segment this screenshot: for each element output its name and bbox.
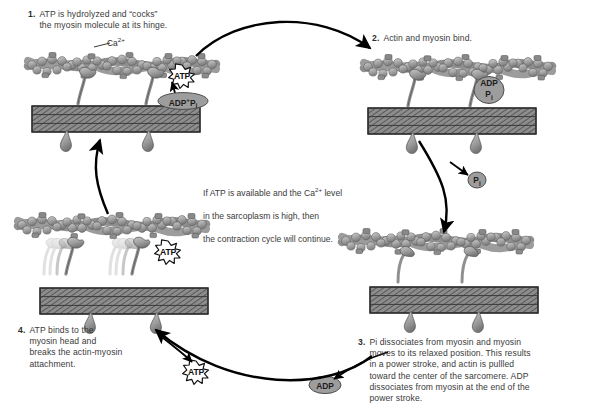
step-2-text: Actin and myosin bind. [383,33,472,44]
atp-burst-label-panel1: ATP [168,71,196,81]
step-1-caption: 1. ATP is hydrolyzed and “cocks” the myo… [28,9,228,31]
step-3-caption: 3. Pi dissociates from myosin and myosin… [358,337,602,404]
step-3-text: Pi dissociates from myosin and myosin mo… [369,337,530,404]
step-3-number: 3. [358,337,365,404]
center-note-line3: the contraction cycle will continue. [203,234,333,244]
pi-free-subscript: i [479,180,481,187]
atp-burst-label-bottom: ATP [182,367,210,377]
adp-text: ADP [169,98,187,108]
adp-text-panel2: ADP [480,78,498,88]
step-1-number: 1. [28,9,35,31]
cycle-arrow-right [419,141,447,232]
calcium-label-superscript: 2+ [118,36,125,43]
step-2-caption: 2. Actin and myosin bind. [372,33,562,44]
step-1-text: ATP is hydrolyzed and “cocks” the myosin… [39,9,167,31]
step-4-number: 4. [18,325,25,370]
step-2-number: 2. [372,33,379,44]
adp-pi-label-panel2: ADP Pi [475,78,503,103]
calcium-label: Ca2+ [107,36,125,48]
cycle-arrow-left [96,140,108,214]
center-note-superscript: 2+ [315,186,322,193]
step-4-text: ATP binds to the myosin head and breaks … [29,325,122,370]
diagram-canvas: 1. ATP is hydrolyzed and “cocks” the myo… [0,0,604,413]
atp-burst-label-panel4: ATP [154,247,182,257]
panel-2-artwork [364,55,553,154]
panel-4-artwork [18,213,208,334]
adp-free-label: ADP [311,381,339,391]
center-note: If ATP is available and the Ca2+ level i… [203,173,403,245]
center-note-line1a: If ATP is available and the Ca [203,188,315,198]
pi-free-label: Pi [466,175,488,187]
phosphorus-subscript-panel2: i [491,94,493,101]
center-note-line1b: level [322,188,342,198]
adp-pi-label-panel1: ADP+Pi [159,96,207,109]
phosphorus-subscript: i [196,102,198,109]
calcium-label-base: Ca [107,38,118,48]
pi-release-arrow [450,162,468,175]
center-note-line2: in the sarcoplasm is high, then [203,211,319,221]
step-4-caption: 4. ATP binds to the myosin head and brea… [18,325,168,370]
